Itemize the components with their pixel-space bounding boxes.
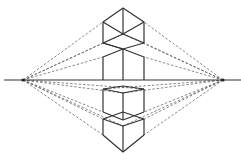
upper-box [103,43,144,80]
guide-lines-left [23,22,144,135]
left-vanishing-point [21,78,24,81]
right-vanishing-point [221,78,224,81]
perspective-diagram [0,0,241,165]
guide-lines-right [103,22,223,135]
top-cube [103,8,144,43]
